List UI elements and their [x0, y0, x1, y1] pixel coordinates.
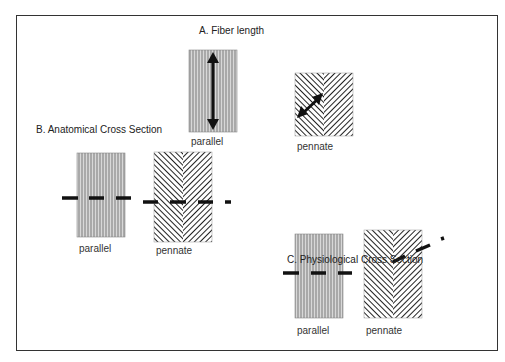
panel-b-title: B. Anatomical Cross Section	[36, 124, 162, 135]
panel-a-title: A. Fiber length	[199, 25, 264, 36]
panel-b-pennate-label: pennate	[156, 245, 192, 256]
panel-a-pennate-label: pennate	[297, 141, 333, 152]
b-pennate-muscle	[143, 152, 231, 242]
panel-c-pennate-label: pennate	[366, 325, 402, 336]
b-parallel-muscle	[62, 153, 131, 237]
panel-c-parallel-label: parallel	[297, 325, 329, 336]
a-parallel-muscle	[189, 50, 237, 132]
panel-c-title: C. Physiological Cross Section	[287, 254, 423, 265]
c-parallel-muscle	[283, 234, 352, 318]
c-pennate-muscle	[364, 230, 444, 318]
a-pennate-muscle	[295, 73, 353, 136]
panel-b-parallel-label: parallel	[79, 243, 111, 254]
diagram-canvas	[0, 0, 505, 362]
panel-a-parallel-label: parallel	[191, 136, 223, 147]
